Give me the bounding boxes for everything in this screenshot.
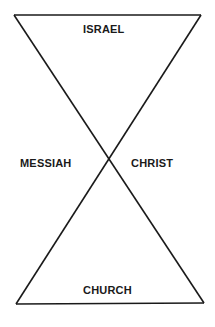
label-right: CHRIST	[131, 158, 173, 169]
label-bottom: CHURCH	[83, 285, 132, 296]
label-top: ISRAEL	[83, 24, 125, 35]
label-left: MESSIAH	[20, 158, 72, 169]
bottom-edge	[16, 303, 204, 304]
